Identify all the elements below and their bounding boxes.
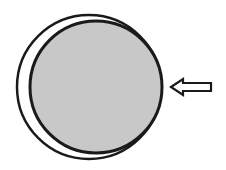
arrow-left-icon	[171, 79, 211, 95]
inner-disc	[30, 21, 162, 153]
diagram-canvas	[0, 0, 226, 170]
